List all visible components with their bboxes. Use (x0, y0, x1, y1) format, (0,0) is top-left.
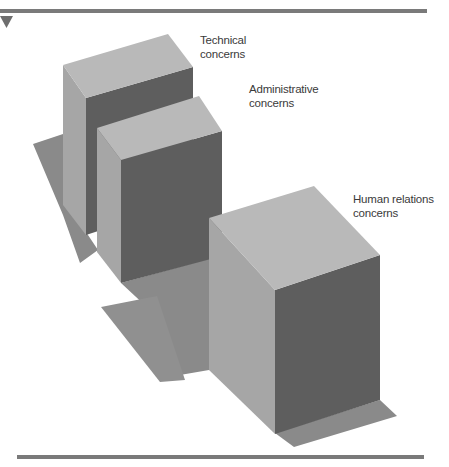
box-administrative (97, 96, 222, 283)
box-human-relations (209, 186, 380, 434)
label-administrative-line1: Administrative (249, 82, 318, 96)
triangle-marker-icon (0, 16, 13, 28)
label-human-relations-concerns: Human relations concerns (353, 192, 434, 220)
label-technical-line2: concerns (200, 47, 246, 61)
label-administrative-concerns: Administrative concerns (249, 82, 318, 110)
label-human-relations-line2: concerns (353, 206, 434, 220)
top-rule (0, 9, 427, 13)
bottom-rule (17, 455, 424, 459)
label-technical-line1: Technical (200, 33, 246, 47)
label-technical-concerns: Technical concerns (200, 33, 246, 61)
label-administrative-line2: concerns (249, 96, 318, 110)
label-human-relations-line1: Human relations (353, 192, 434, 206)
three-skills-diagram (0, 0, 449, 467)
